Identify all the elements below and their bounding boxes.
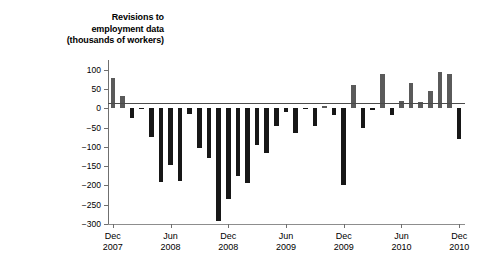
bar [120,96,125,109]
y-axis-tick-label: 100 [87,66,101,74]
x-axis-tick [171,224,172,228]
bar [313,108,318,125]
y-axis-tick [104,224,108,225]
bar [390,108,395,115]
y-axis-tick [104,108,108,109]
bar [293,108,298,133]
bar [245,108,250,183]
x-axis-tick [286,224,287,228]
bar [264,108,269,152]
y-axis-tick-label: 50 [92,85,101,93]
bar [322,106,327,108]
bar [274,108,279,125]
bar [428,91,433,108]
bar [255,108,260,145]
y-axis-tick [104,70,108,71]
bar [207,108,212,157]
bar [332,108,337,115]
employment-revisions-chart: Revisions to employment data (thousands … [0,0,477,263]
x-axis-tick [401,224,402,228]
x-axis-tick-label: Dec2007 [90,231,136,253]
y-axis-tick [104,185,108,186]
chart-title-line-2: employment data [36,24,164,36]
bar [303,108,308,109]
y-axis-tick-label: −300 [82,220,101,228]
bar [130,108,135,118]
x-axis-tick-label: Dec2009 [321,231,367,253]
zero-baseline [108,103,465,104]
bar [168,108,173,165]
y-axis-tick-label: −250 [82,201,101,209]
chart-title-line-1: Revisions to [36,12,164,24]
bar [284,108,289,112]
x-axis-tick [113,224,114,228]
bar [409,83,414,108]
chart-title: Revisions to employment data (thousands … [36,12,164,47]
y-axis-tick-label: −100 [82,143,101,151]
bar [178,108,183,181]
bar [399,101,404,109]
bar [341,108,346,185]
bar [236,108,241,176]
bar [361,108,366,127]
bar [197,108,202,148]
bar [149,108,154,137]
bar [159,108,164,182]
x-axis-tick-label: Jun2010 [378,231,424,253]
y-axis-tick [104,89,108,90]
bar [457,108,462,139]
x-axis-tick-label: Jun2008 [148,231,194,253]
y-axis-tick [104,166,108,167]
x-axis-tick-label: Jun2009 [263,231,309,253]
y-axis-tick-label: −50 [87,124,101,132]
bar [370,108,375,110]
x-axis-tick-label: Dec2010 [436,231,477,253]
y-axis-tick-label: 0 [96,104,101,112]
bar [216,108,221,221]
x-axis-tick [344,224,345,228]
bar [226,108,231,199]
y-axis-tick-label: −200 [82,181,101,189]
bar [187,108,192,114]
chart-title-line-3: (thousands of workers) [36,35,164,47]
y-axis-tick [104,205,108,206]
x-axis-tick [459,224,460,228]
bar [139,108,144,109]
plot-area: 100500−50−100−150−200−250−300 Dec2007Jun… [108,60,464,224]
y-axis-tick [104,128,108,129]
y-axis-tick-label: −150 [82,162,101,170]
x-axis-tick [228,224,229,228]
bar [351,85,356,108]
y-axis-tick [104,147,108,148]
x-axis-tick-label: Dec2008 [205,231,251,253]
